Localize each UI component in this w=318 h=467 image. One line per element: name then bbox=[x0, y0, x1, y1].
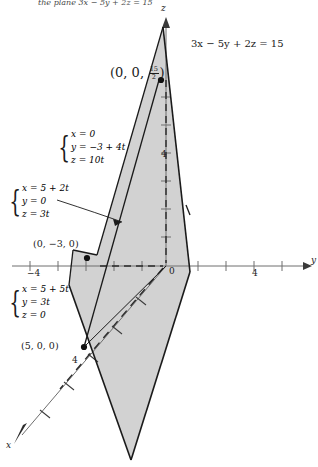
z-axis-arrowhead bbox=[162, 17, 170, 28]
fraction-numerator: 15 bbox=[149, 66, 159, 73]
x-axis-arrowhead bbox=[14, 423, 27, 444]
equation-z-yz: z = 10t bbox=[71, 154, 125, 167]
fraction-fifteen-halves: 152 bbox=[149, 66, 159, 80]
brace-left-xy: { bbox=[9, 287, 21, 317]
fraction-denominator: 2 bbox=[149, 73, 159, 81]
point-label-x-intercept: (5, 0, 0) bbox=[21, 341, 59, 352]
equation-z-xz: z = 3t bbox=[22, 208, 69, 221]
y-axis-tick-label-4: 4 bbox=[252, 268, 258, 278]
parametric-system-xy: { x = 5 + 5t y = 3t z = 0 bbox=[2, 283, 69, 321]
z-axis-label: z bbox=[161, 3, 166, 13]
parametric-system-yz: { x = 0 y = −3 + 4t z = 10t bbox=[51, 128, 125, 166]
x-axis-label: x bbox=[6, 440, 11, 450]
point-label-z-intercept: (0, 0, 152) bbox=[110, 66, 165, 81]
brace-left-yz: { bbox=[58, 132, 70, 162]
equation-z-xy: z = 0 bbox=[22, 309, 69, 322]
plane-equation-label: 3x − 5y + 2z = 15 bbox=[191, 38, 284, 50]
point-y-intercept bbox=[84, 255, 90, 261]
equation-list-yz: x = 0 y = −3 + 4t z = 10t bbox=[71, 128, 125, 166]
y-axis-label: y bbox=[311, 255, 316, 265]
origin-label: 0 bbox=[169, 266, 175, 276]
plane-intercepts-figure: the plane 3x − 5y + 2z = 15 bbox=[0, 0, 318, 467]
equation-y-xz: y = 0 bbox=[22, 195, 69, 208]
shaded-plane-region bbox=[69, 27, 190, 460]
parametric-system-xz: { x = 5 + 2t y = 0 z = 3t bbox=[2, 182, 69, 220]
equation-y-yz: y = −3 + 4t bbox=[71, 141, 125, 154]
plane-edge-notch bbox=[186, 205, 190, 215]
z-axis-tick-label-4: 4 bbox=[161, 149, 167, 159]
equation-list-xz: x = 5 + 2t y = 0 z = 3t bbox=[22, 182, 69, 220]
equation-y-xy: y = 3t bbox=[22, 296, 69, 309]
x-axis-tick-label-4: 4 bbox=[72, 355, 78, 365]
point-x-intercept bbox=[81, 344, 87, 350]
equation-x-xz: x = 5 + 2t bbox=[22, 182, 69, 195]
z-intercept-open-paren: (0, 0, bbox=[110, 65, 148, 80]
equation-x-xy: x = 5 + 5t bbox=[22, 283, 69, 296]
z-intercept-close-paren: ) bbox=[160, 65, 165, 80]
point-label-y-intercept: (0, −3, 0) bbox=[33, 239, 79, 250]
equation-x-yz: x = 0 bbox=[71, 128, 125, 141]
equation-list-xy: x = 5 + 5t y = 3t z = 0 bbox=[22, 283, 69, 321]
y-axis-tick-label-neg4: −4 bbox=[27, 268, 40, 278]
brace-left-xz: { bbox=[9, 186, 21, 216]
